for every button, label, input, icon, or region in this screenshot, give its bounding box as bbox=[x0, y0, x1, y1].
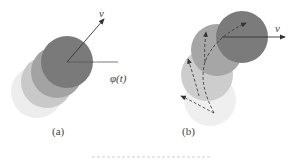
panel-b-diagram bbox=[181, 11, 285, 126]
panel-a-angle-label: φ(t) bbox=[110, 73, 126, 84]
panel-b-label: (b) bbox=[182, 126, 195, 137]
panel-a-label: (a) bbox=[52, 126, 64, 137]
panel-a-diagram bbox=[11, 19, 118, 118]
figure-canvas bbox=[0, 0, 294, 164]
panel-a-velocity-label: v bbox=[99, 8, 104, 19]
panel-b-velocity-label: v bbox=[275, 23, 280, 34]
figure-caption-illegible bbox=[92, 156, 212, 158]
